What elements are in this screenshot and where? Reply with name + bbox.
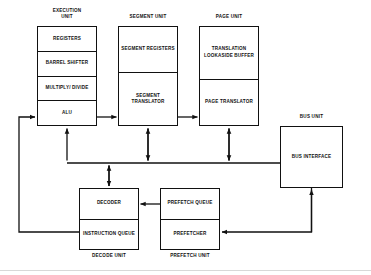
caption-execution-unit: EXECUTION UNIT xyxy=(37,8,97,20)
caption-segment-unit: SEGMENT UNIT xyxy=(113,14,183,20)
page-unit[interactable]: TRANSLATION LOOKASIDE BUFFER PAGE TRANSL… xyxy=(199,26,259,126)
execution-unit[interactable]: REGISTERS BARREL SHIFTER MULTIPLY/ DIVID… xyxy=(37,26,97,126)
cell-translation-lookaside-buffer[interactable]: TRANSLATION LOOKASIDE BUFFER xyxy=(200,27,258,79)
cell-registers[interactable]: REGISTERS xyxy=(38,27,96,51)
path-instruction-queue-to-alu xyxy=(19,117,79,232)
footer-divider xyxy=(0,270,371,271)
cpu-block-diagram: EXECUTION UNIT REGISTERS BARREL SHIFTER … xyxy=(0,0,371,275)
cell-bus-interface[interactable]: BUS INTERFACE xyxy=(281,127,342,187)
cell-decoder[interactable]: DECODER xyxy=(80,189,138,219)
cell-barrel-shifter[interactable]: BARREL SHIFTER xyxy=(38,51,96,76)
caption-page-unit: PAGE UNIT xyxy=(194,14,264,20)
segment-unit[interactable]: SEGMENT REGISTERS SEGMENT TRANSLATOR xyxy=(118,26,178,126)
prefetch-unit[interactable]: PREFETCH QUEUE PREFETCHER xyxy=(160,188,220,250)
path-bus-interface-to-prefetcher xyxy=(222,188,312,232)
decode-unit[interactable]: DECODER INSTRUCTION QUEUE xyxy=(79,188,139,250)
cell-instruction-queue[interactable]: INSTRUCTION QUEUE xyxy=(80,219,138,250)
cell-multiply-divide[interactable]: MULTIPLY/ DIVIDE xyxy=(38,76,96,101)
caption-decode-unit: DECODE UNIT xyxy=(74,253,144,259)
caption-prefetch-unit: PREFETCH UNIT xyxy=(155,253,225,259)
cell-prefetch-queue[interactable]: PREFETCH QUEUE xyxy=(161,189,219,219)
cell-page-translator[interactable]: PAGE TRANSLATOR xyxy=(200,79,258,125)
cell-prefetcher[interactable]: PREFETCHER xyxy=(161,219,219,250)
bus-unit[interactable]: BUS INTERFACE xyxy=(280,126,343,188)
cell-segment-registers[interactable]: SEGMENT REGISTERS xyxy=(119,27,177,72)
cell-alu[interactable]: ALU xyxy=(38,100,96,125)
cell-segment-translator[interactable]: SEGMENT TRANSLATOR xyxy=(119,72,177,125)
caption-bus-unit: BUS UNIT xyxy=(278,114,345,120)
